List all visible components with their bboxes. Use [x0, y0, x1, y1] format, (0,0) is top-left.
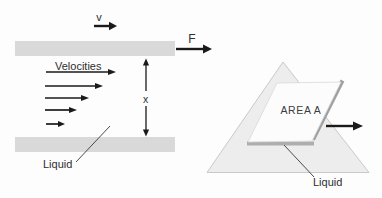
bottom-plate [15, 137, 175, 152]
gap-dimension-label: x [143, 93, 149, 105]
force-label: F [188, 32, 195, 46]
velocity-profile-arrow-2 [45, 83, 103, 89]
plate-velocity-arrow-icon [94, 22, 117, 30]
velocity-profile-arrow-5 [46, 121, 65, 127]
viscosity-figure: v F Velocities [0, 0, 382, 198]
top-plate [15, 41, 175, 56]
velocity-profile-arrow-4 [45, 107, 77, 113]
plate-velocity-label: v [96, 11, 102, 23]
area-a-label: AREA A [281, 104, 322, 116]
figure-canvas: v F Velocities [0, 0, 382, 198]
velocity-profile-label: Velocities [55, 60, 102, 72]
liquid-label-right: Liquid [313, 176, 342, 188]
liquid-label-left: Liquid [43, 158, 72, 170]
velocity-profile-arrow-3 [45, 95, 89, 101]
